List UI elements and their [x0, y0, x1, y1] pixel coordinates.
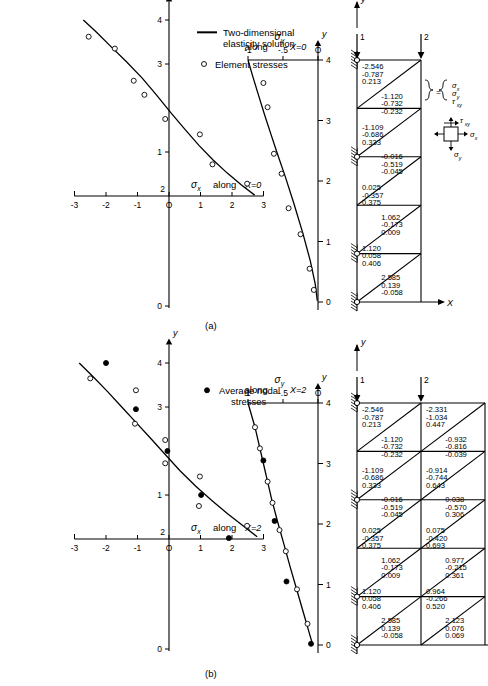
data-point: [131, 78, 136, 83]
chart-a-sigmay-xlabel-sub: y: [280, 37, 285, 45]
load-arrow-1-label: 1: [360, 32, 365, 42]
y-tick-label: 4: [326, 55, 331, 65]
data-point: [112, 46, 117, 51]
stress-value: 0.406: [362, 259, 381, 268]
stress-value: 0.447: [426, 420, 445, 429]
load-arrow-2-head: [418, 395, 425, 402]
chart-a-sigmax-xlabel-sub: x: [196, 185, 201, 192]
data-point: [261, 80, 266, 85]
data-point: [284, 579, 289, 584]
sigma-y-arrowhead-up: [449, 117, 454, 121]
data-point: [270, 500, 275, 505]
stress-value: 0.643: [426, 481, 445, 490]
chart-b-sigmax-xlabel-sub: x: [196, 528, 201, 535]
stress-notation: =σxσyτxy: [425, 80, 462, 108]
mesh-y-axis: y: [354, 0, 366, 28]
stress-element-square: [444, 127, 458, 141]
data-point: [196, 504, 201, 509]
stress-element-tau-xy-glyph: τ: [460, 116, 464, 125]
y-tick-label: 2: [160, 184, 165, 194]
y-tick-label: 1: [157, 147, 162, 157]
mesh-y-axis-arrowhead: [354, 1, 360, 8]
data-point: [305, 621, 310, 626]
x-tick-label: 1: [198, 200, 203, 210]
stress-value: 0.009: [381, 228, 400, 237]
mesh-node: [354, 497, 359, 502]
data-point: [311, 287, 316, 292]
data-point: [163, 117, 168, 122]
y-axis-arrowhead: [315, 383, 321, 389]
panel-b-caption: (b): [205, 668, 217, 679]
y-tick-label: 4: [157, 358, 162, 368]
data-point: [257, 446, 262, 451]
chart-b-sigmay-title-main: along: [245, 384, 268, 395]
y-tick-label: 0: [326, 297, 331, 307]
stress-value: -0.232: [381, 107, 403, 116]
stress-element-sigma-y: σy: [454, 150, 462, 161]
x-tick-label: -1: [134, 200, 142, 210]
stress-value: -0.039: [445, 450, 467, 459]
y-axis-label: y: [321, 372, 327, 382]
data-point: [86, 34, 91, 39]
stress-element-sigma-x: σx: [470, 130, 478, 141]
stress-value: 0.069: [445, 631, 464, 640]
y-tick-label: 4: [157, 15, 162, 25]
stress-value: 0.406: [362, 602, 381, 611]
chart-b-sigmax-xlabel: σx: [191, 522, 201, 535]
data-point: [210, 162, 215, 167]
data-point: [245, 181, 250, 186]
stress-value: 0.213: [362, 77, 381, 86]
stress-value: 0.375: [362, 198, 381, 207]
y-axis-label: y: [172, 328, 178, 338]
data-point: [277, 528, 282, 533]
stress-value: -0.045: [381, 167, 403, 176]
stress-value: 0.213: [362, 420, 381, 429]
data-point: [265, 105, 270, 110]
data-point: [253, 425, 258, 430]
mesh-node: [354, 251, 359, 256]
chart-a-sigmay: -1-.5OσyalongX=0y01234: [244, 29, 331, 310]
x-tick-label: -1: [134, 543, 142, 553]
data-point: [165, 449, 170, 454]
y-tick-label: 0: [326, 640, 331, 650]
stress-element-diagram: σxσyτxy: [434, 116, 478, 161]
chart-a-sigmax-title-main: along: [213, 179, 236, 190]
stress-element-tau-xy: τxy: [460, 116, 470, 127]
stress-value: -0.058: [381, 631, 403, 640]
data-point: [272, 518, 277, 523]
x-tick-label: 1: [198, 543, 203, 553]
x-tick-label: 2: [230, 543, 235, 553]
data-point: [271, 151, 276, 156]
y-tick-label: 2: [326, 519, 331, 529]
stress-value: 0.693: [426, 541, 445, 550]
y-tick-label: 1: [157, 490, 162, 500]
x-tick-label: 3: [261, 200, 266, 210]
y-tick-label: 3: [157, 59, 162, 69]
data-point: [163, 461, 168, 466]
x-tick-label: -3: [71, 543, 79, 553]
y-tick-label: 2: [326, 176, 331, 186]
brace-left: [425, 80, 433, 100]
y-tick-label: 3: [326, 116, 331, 126]
chart-a-sigmay-title-main: along: [245, 41, 268, 52]
mesh-y-axis-arrowhead: [354, 344, 360, 351]
data-point: [132, 421, 137, 426]
data-point: [283, 549, 288, 554]
panel-a: -3-2-1O123y01234σxalongX=0Two-dimensiona…: [0, 0, 488, 343]
load-arrow-2-label: 2: [424, 375, 429, 385]
mesh-y-axis-label: y: [360, 0, 366, 4]
x-tick-label: -3: [71, 200, 79, 210]
stress-element-tau-xy-sub: xy: [464, 121, 471, 127]
tau-arrowhead-top: [455, 121, 459, 126]
y-tick-label: 4: [326, 398, 331, 408]
chart-b-sigmay: 1-.5OσyalongX=2y01234: [245, 372, 332, 653]
y-tick-label: 2: [160, 527, 165, 537]
data-point: [261, 458, 266, 463]
chart-b-sigmay-title-value: X=2: [289, 385, 306, 395]
data-point: [265, 479, 270, 484]
data-point: [286, 206, 291, 211]
data-point: [226, 536, 231, 541]
data-point: [142, 92, 147, 97]
sigmay-tick-label: -.5: [278, 45, 288, 55]
load-arrow-1: 1: [354, 375, 365, 402]
